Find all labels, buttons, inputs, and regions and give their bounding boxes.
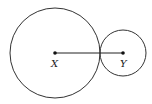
center-point-y <box>121 51 125 55</box>
center-point-x <box>53 51 57 55</box>
label-x: X <box>50 58 59 69</box>
label-y: Y <box>120 58 128 69</box>
tangent-circles-diagram: X Y <box>0 0 152 104</box>
